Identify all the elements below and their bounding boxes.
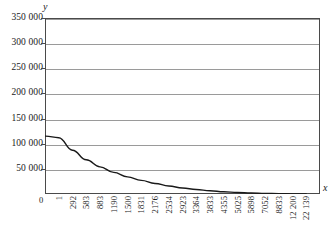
x-axis-name: x (323, 183, 327, 193)
y-axis-name: y (43, 2, 47, 12)
x-axis-tick-label: 4355 (220, 196, 229, 213)
x-axis-tick-label: 2534 (165, 196, 174, 213)
x-axis-tick-label: 22 139 (302, 196, 311, 220)
x-axis-tick-label: 12 200 (288, 196, 297, 220)
x-axis-tick-label: 8833 (275, 196, 284, 213)
x-axis-tick-label: 2176 (151, 196, 160, 213)
y-axis-tick-label: 50 000 (0, 164, 43, 174)
x-axis-tick-label: 1500 (123, 196, 132, 213)
curve-path (46, 136, 307, 194)
data-curve (45, 18, 320, 194)
y-axis-tick-label: 200 000 (0, 88, 43, 98)
x-axis-tick-label: 0 (39, 196, 43, 205)
x-axis-tick-label: 3833 (206, 196, 215, 213)
x-axis-tick-label: 1 (55, 196, 64, 200)
y-axis-tick-label: 350 000 (0, 13, 43, 23)
x-axis-tick-label: 3364 (192, 196, 201, 213)
y-axis-tick-label: 150 000 (0, 114, 43, 124)
x-axis-tick-label: 292 (68, 196, 77, 209)
y-axis-tick-label: 250 000 (0, 63, 43, 73)
x-axis-tick-label: 5898 (247, 196, 256, 213)
x-axis-tick-label: 5025 (233, 196, 242, 213)
y-axis-tick-label: 100 000 (0, 139, 43, 149)
x-axis-tick-label: 2923 (178, 196, 187, 213)
x-axis-tick-label: 583 (82, 196, 91, 209)
y-axis-tick-label: 300 000 (0, 38, 43, 48)
x-axis-tick-label: 7052 (261, 196, 270, 213)
x-axis-tick-label: 1190 (110, 196, 119, 213)
chart-container: y 350 000300 000250 000200 000150 000100… (0, 0, 335, 237)
x-axis-tick-labels: 0129258388311901500183121762534292333643… (0, 194, 335, 237)
x-axis-tick-label: 883 (96, 196, 105, 209)
x-axis-tick-label: 1831 (137, 196, 146, 213)
